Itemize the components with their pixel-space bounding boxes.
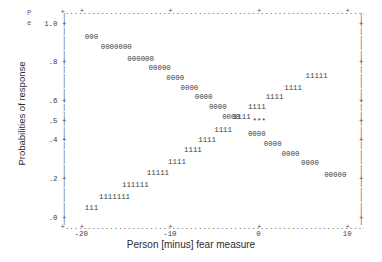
- data-row-0: 00000: [324, 172, 346, 179]
- data-row-1: 1111: [248, 104, 266, 111]
- data-row-0: 000: [85, 34, 98, 41]
- data-row-1: 111: [85, 205, 98, 212]
- data-row-0: 0000: [166, 75, 184, 82]
- y-axis-title: Probabilities of response: [16, 29, 27, 199]
- ascii-plot-figure: P e Probabilities of response Person [mi…: [0, 0, 382, 262]
- x-tick-top: +: [168, 8, 172, 15]
- x-tick-label: 0: [245, 231, 273, 238]
- data-row-0: 000000: [127, 56, 154, 63]
- y-tick-left: +: [62, 176, 66, 183]
- data-row-0: 0000: [209, 104, 227, 111]
- data-row-1: 1111: [284, 85, 302, 92]
- data-row-0: 0000: [301, 160, 319, 167]
- x-tick-top: +: [257, 8, 261, 15]
- y-tick-right: +: [359, 21, 363, 28]
- plot-border-top: +.......................................…: [61, 9, 364, 16]
- x-axis-title: Person [minus] fear measure: [0, 239, 382, 250]
- y-tick-label: .6: [30, 98, 58, 105]
- data-row-0: 0000000: [101, 44, 132, 51]
- data-row-0: 0000: [282, 151, 300, 158]
- data-row-0: 0000: [195, 94, 213, 101]
- data-row-1: 111111: [122, 182, 149, 189]
- y-tick-label: .4: [30, 137, 58, 144]
- x-tick-top: +: [80, 8, 84, 15]
- data-row-0: 0000: [248, 131, 266, 138]
- y-tick-left: +: [62, 215, 66, 222]
- y-tick-right: +: [359, 215, 363, 222]
- y-tick-label: .2: [30, 176, 58, 183]
- x-tick-label: -10: [156, 231, 184, 238]
- data-row-1: 11111: [306, 73, 328, 80]
- data-row-0: 0000: [181, 85, 199, 92]
- data-row-1: 1111111: [99, 194, 130, 201]
- y-tick-left: +: [62, 21, 66, 28]
- y-tick-left: +: [62, 98, 66, 105]
- data-row-1: 1111: [198, 137, 216, 144]
- y-tick-left: +: [62, 137, 66, 144]
- y-tick-left: +: [62, 59, 66, 66]
- x-tick-label: -20: [67, 231, 95, 238]
- y-tick-right: +: [359, 118, 363, 125]
- x-tick-label: 10: [333, 231, 361, 238]
- y-tick-right: +: [359, 137, 363, 144]
- x-tick-top: +: [346, 8, 350, 15]
- plot-border-bottom: +.......................................…: [61, 224, 364, 231]
- data-row-0: 0000: [264, 141, 282, 148]
- data-row-1: 1111: [168, 159, 186, 166]
- y-tick-label: .5: [30, 118, 58, 125]
- data-row-1: 1111: [233, 114, 251, 121]
- y-tick-right: +: [359, 98, 363, 105]
- data-row-1: 1111: [266, 94, 284, 101]
- y-tick-label: .0: [30, 215, 58, 222]
- corner-label-top: P: [27, 9, 31, 17]
- y-tick-label: 1.0: [30, 21, 58, 28]
- data-row-1: 1111: [184, 147, 202, 154]
- y-tick-label: .8: [30, 59, 58, 66]
- crossing-marker: ***: [253, 118, 266, 125]
- y-tick-left: +: [62, 118, 66, 125]
- data-row-1: 11111: [147, 170, 169, 177]
- data-row-1: 1111: [214, 127, 232, 134]
- data-row-0: 00000: [149, 65, 171, 72]
- y-tick-right: +: [359, 59, 363, 66]
- y-tick-right: +: [359, 176, 363, 183]
